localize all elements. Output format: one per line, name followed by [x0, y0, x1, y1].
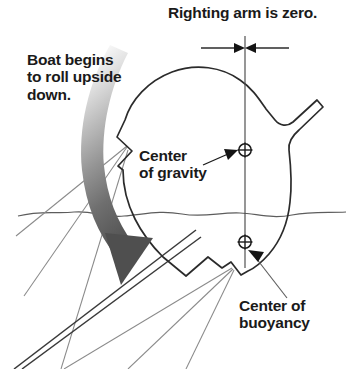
center-of-buoyancy-label: Center of buoyancy	[239, 297, 310, 332]
waterline	[18, 212, 346, 217]
center-of-buoyancy-leader	[248, 250, 287, 298]
center-of-gravity-label: Center of gravity	[139, 147, 207, 182]
center-of-gravity-marker	[238, 143, 253, 158]
mast	[14, 230, 201, 369]
diagram-canvas: Righting arm is zero. Boat begins to rol…	[0, 0, 354, 369]
dimension-arrowhead-left	[234, 43, 245, 53]
cog-leader-arrowhead	[224, 149, 238, 160]
righting-arm-note: Righting arm is zero.	[168, 4, 317, 21]
center-of-gravity-leader	[203, 149, 238, 165]
roll-upside-down-note: Boat begins to roll upside down.	[27, 51, 122, 103]
center-of-buoyancy-marker	[238, 235, 253, 250]
cob-leader-arrowhead	[248, 250, 264, 262]
dimension-arrowhead-right	[245, 43, 256, 53]
